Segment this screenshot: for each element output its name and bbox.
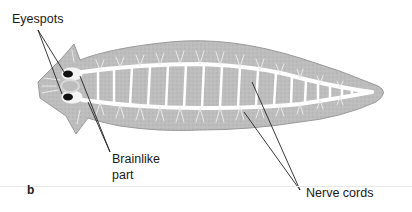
label-brainlike-line2: part (112, 168, 134, 182)
label-brainlike-line1: Brainlike (112, 152, 160, 166)
label-eyespots: Eyespots (12, 12, 63, 26)
panel-letter: b (27, 183, 34, 197)
worm-body (38, 41, 384, 134)
flatworm-diagram (0, 0, 412, 212)
label-nerve-cords: Nerve cords (306, 186, 373, 200)
